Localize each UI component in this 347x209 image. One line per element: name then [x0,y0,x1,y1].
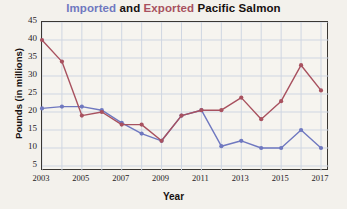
x-tick-2005: 2005 [67,173,95,183]
data-point-exported-2009 [159,139,163,143]
data-point-imported-2008 [140,132,144,136]
data-point-imported-2005 [80,105,84,109]
data-point-exported-2015 [279,99,283,103]
y-tick-15: 15 [14,123,37,133]
data-point-imported-2017 [319,146,323,150]
title-word-and: and [116,2,143,14]
data-point-imported-2013 [239,139,243,143]
chart-screenshot: Imported and Exported Pacific Salmon Pou… [0,0,347,209]
x-tick-2003: 2003 [27,173,55,183]
data-point-exported-2006 [100,110,104,114]
x-tick-2017: 2017 [306,173,334,183]
data-point-imported-2015 [279,146,283,150]
plot-area [41,21,328,170]
x-tick-2011: 2011 [186,173,214,183]
data-point-exported-2012 [219,108,223,112]
series-line-exported [42,40,321,141]
data-point-imported-2014 [259,146,263,150]
y-tick-20: 20 [14,105,37,115]
data-point-exported-2010 [179,114,183,118]
data-point-imported-2016 [299,128,303,132]
data-point-exported-2008 [140,123,144,127]
x-tick-2009: 2009 [147,173,175,183]
x-axis-title: Year [0,191,347,202]
y-tick-5: 5 [14,159,37,169]
y-tick-25: 25 [14,87,37,97]
data-point-exported-2007 [120,123,124,127]
data-point-exported-2014 [259,117,263,121]
y-tick-40: 40 [14,33,37,43]
title-word-imported: Imported [66,2,116,14]
title-word-exported: Exported [144,2,195,14]
data-point-exported-2011 [199,108,203,112]
y-tick-30: 30 [14,69,37,79]
data-point-exported-2005 [80,114,84,118]
x-tick-2013: 2013 [226,173,254,183]
data-point-exported-2003 [40,38,44,42]
data-point-exported-2017 [319,88,323,92]
data-point-imported-2004 [60,105,64,109]
y-tick-10: 10 [14,141,37,151]
title-word-rest: Pacific Salmon [194,2,281,14]
x-tick-2007: 2007 [107,173,135,183]
data-point-exported-2013 [239,96,243,100]
y-tick-45: 45 [14,15,37,25]
data-series-layer [42,22,329,171]
y-tick-35: 35 [14,51,37,61]
page-title: Imported and Exported Pacific Salmon [0,2,347,14]
data-point-imported-2003 [40,106,44,110]
series-line-imported [42,107,321,148]
data-point-exported-2004 [60,60,64,64]
x-tick-2015: 2015 [266,173,294,183]
data-point-exported-2016 [299,63,303,67]
data-point-imported-2012 [219,144,223,148]
